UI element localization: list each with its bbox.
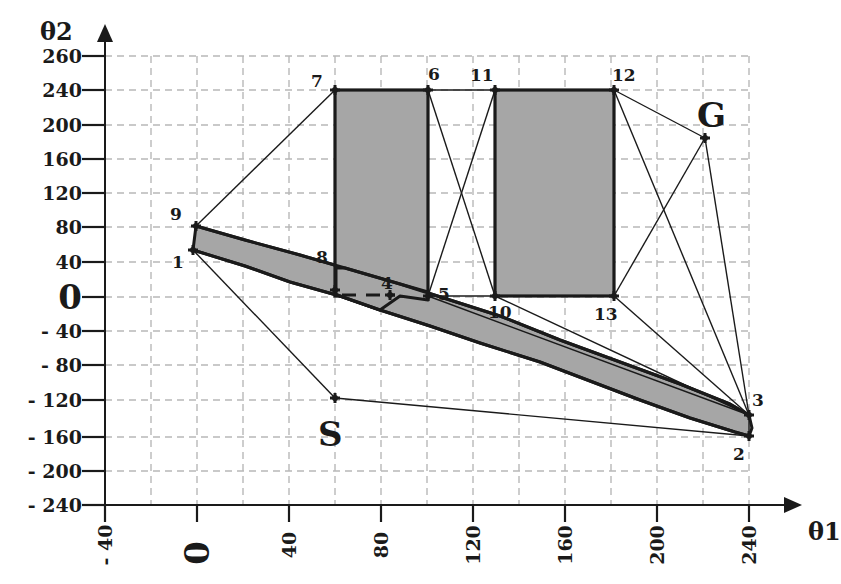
- vertex-label-13: 13: [594, 304, 618, 324]
- x-tick-label: - 40: [94, 525, 116, 566]
- x-axis-name: θ1: [808, 517, 841, 546]
- vertex-label-G: G: [697, 95, 726, 135]
- rect-obstacle-left: [335, 90, 428, 296]
- x-tick-label: 200: [646, 525, 668, 565]
- vertex-label-9: 9: [170, 204, 182, 224]
- vertex-label-1: 1: [172, 252, 184, 272]
- vertex-label-5: 5: [438, 284, 450, 304]
- rect-obstacle-right: [495, 90, 614, 296]
- x-tick-label: 0: [177, 541, 217, 565]
- x-axis-arrow-icon: [784, 497, 802, 513]
- vertex-label-3: 3: [752, 390, 764, 410]
- x-tick-label: 160: [554, 525, 576, 565]
- y-tick-label: 260: [42, 45, 82, 67]
- y-tick-label: - 240: [28, 494, 82, 516]
- vertex-label-7: 7: [311, 71, 323, 91]
- x-axis-ticks: - 4004080120160200240: [94, 505, 760, 565]
- x-tick-label: 40: [278, 532, 300, 558]
- y-tick-label: - 40: [41, 320, 82, 342]
- y-tick-label: 160: [42, 148, 82, 170]
- vertex-label-S: S: [318, 414, 343, 454]
- edge-13-G: [614, 138, 705, 296]
- y-tick-label: - 200: [28, 460, 82, 482]
- y-axis-name: θ2: [40, 17, 73, 46]
- x-tick-label: 80: [370, 532, 392, 558]
- y-axis-arrow-icon: [97, 24, 113, 42]
- y-tick-label: 120: [42, 182, 82, 204]
- vertex-label-2: 2: [733, 444, 745, 464]
- vertex-label-12: 12: [612, 65, 636, 85]
- vertex-label-10: 10: [488, 302, 512, 322]
- c-space-diagram: θ1 θ2 26024020016012080400- 40- 80- 120-…: [0, 0, 841, 584]
- y-tick-label: 40: [56, 251, 82, 273]
- edge-G-3: [705, 138, 749, 415]
- y-tick-label: - 120: [28, 389, 82, 411]
- x-tick-label: 240: [738, 525, 760, 565]
- vertex-label-6: 6: [428, 64, 440, 84]
- vertex-label-4: 4: [381, 273, 393, 293]
- y-tick-label: - 160: [28, 426, 82, 448]
- y-tick-label: - 80: [41, 354, 82, 376]
- y-tick-label: 200: [42, 114, 82, 136]
- vertex-label-8: 8: [316, 247, 328, 267]
- edge-12-G: [614, 90, 705, 138]
- edge-9-7: [196, 90, 335, 226]
- rect-obstacles: [335, 90, 614, 296]
- y-tick-label: 0: [58, 277, 82, 317]
- vertex-label-11: 11: [470, 65, 494, 85]
- y-axis-ticks: 26024020016012080400- 40- 80- 120- 160- …: [28, 45, 105, 516]
- x-tick-label: 120: [462, 525, 484, 565]
- y-tick-label: 80: [56, 216, 82, 238]
- y-tick-label: 240: [42, 79, 82, 101]
- edge-5-3: [428, 296, 749, 415]
